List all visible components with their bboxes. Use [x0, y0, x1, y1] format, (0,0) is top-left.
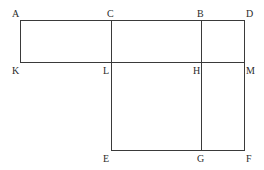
vertex-label-f: F	[246, 154, 252, 164]
vertex-label-l: L	[103, 66, 109, 76]
figure-canvas	[0, 0, 264, 170]
segments-group	[20, 20, 244, 150]
geometry-figure: ACBDKLHMEGF	[0, 0, 264, 170]
vertex-label-d: D	[246, 9, 253, 19]
vertex-label-a: A	[12, 9, 19, 19]
vertex-label-b: B	[197, 9, 204, 19]
vertex-label-c: C	[107, 9, 114, 19]
vertex-label-m: M	[246, 66, 255, 76]
vertex-label-e: E	[103, 154, 109, 164]
vertex-label-g: G	[197, 154, 204, 164]
vertex-label-k: K	[12, 66, 19, 76]
vertex-label-h: H	[193, 66, 200, 76]
